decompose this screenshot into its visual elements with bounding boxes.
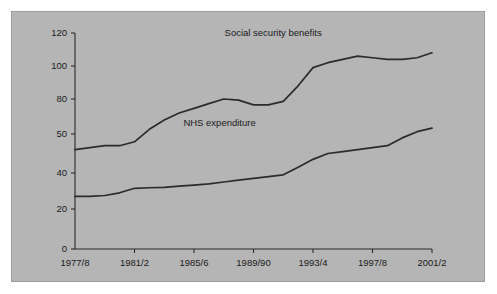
y-tick-label: 0 <box>62 243 67 254</box>
y-tick-label: 100 <box>51 60 67 71</box>
chart-panel: 0204050801001201977/81981/21985/61989/90… <box>11 11 485 282</box>
y-tick-label: 40 <box>56 167 67 178</box>
x-tick-label: 2001/2 <box>417 257 446 268</box>
y-tick-label: 50 <box>56 128 67 139</box>
series-line-nhs-expenditure <box>75 128 432 196</box>
x-tick-label: 1989/90 <box>236 257 270 268</box>
line-chart: 0204050801001201977/81981/21985/61989/90… <box>12 12 486 283</box>
series-label-social-security-benefits: Social security benefits <box>225 27 322 38</box>
y-tick-label: 20 <box>56 203 67 214</box>
x-tick-label: 1997/8 <box>358 257 387 268</box>
x-tick-label: 1981/2 <box>120 257 149 268</box>
y-tick-label: 80 <box>56 93 67 104</box>
x-tick-label: 1977/8 <box>60 257 89 268</box>
series-label-nhs-expenditure: NHS expenditure <box>183 117 255 128</box>
figure: 0204050801001201977/81981/21985/61989/90… <box>0 0 497 294</box>
chart-axes <box>75 33 432 249</box>
x-tick-label: 1993/4 <box>298 257 327 268</box>
series-line-social-security-benefits <box>75 53 432 150</box>
x-tick-label: 1985/6 <box>179 257 208 268</box>
y-tick-label: 120 <box>51 27 67 38</box>
